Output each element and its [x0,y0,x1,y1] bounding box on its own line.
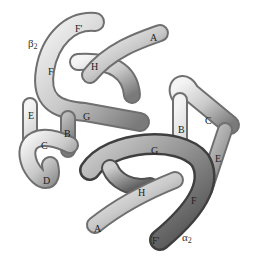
helix-label: C [205,116,212,126]
chain-label-alpha2: α2 [182,232,192,245]
helix-label: E [28,111,34,121]
helix-label: G [151,146,158,156]
helix-label: B [178,125,185,135]
helix-label: C [41,141,48,151]
helix-label: G [83,112,90,122]
chain-label-beta2: β2 [28,38,38,51]
helix-label: F [48,67,54,77]
helix-label: F' [75,24,82,34]
helix-label: H [138,188,145,198]
helix-label: B [64,129,71,139]
tube-structure-graphic [0,0,260,267]
helix-label: H [91,62,98,72]
helix-label: D [43,176,50,186]
helix-label: A [150,33,157,43]
hemoglobin-diagram: β2 α2 F' A F H E G B C D C B G E H F A F… [0,0,260,267]
helix-label: A [94,224,101,234]
helix-label: F [191,196,197,206]
helix-label: E [215,154,221,164]
helix-label: F' [152,236,159,246]
